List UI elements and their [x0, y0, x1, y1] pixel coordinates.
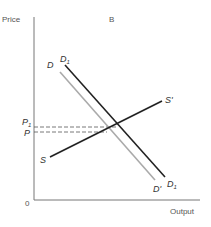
x-axis-label: Output	[170, 207, 195, 216]
demand-curve-d1	[65, 65, 165, 177]
d1-label: D1	[60, 54, 70, 65]
y-axis-label: Price	[2, 15, 21, 24]
p-label: P	[24, 128, 30, 138]
d1-end-label: D1	[167, 179, 177, 190]
chart-title: B	[109, 15, 114, 24]
origin-label: 0	[25, 199, 30, 208]
supply-curve-s	[50, 101, 162, 157]
s-label: S	[40, 155, 46, 165]
demand-curve-d	[60, 72, 155, 180]
supply-demand-chart: Price B Output 0 D D1 D' D1 S S' P1 P	[0, 0, 211, 227]
d-end-label: D'	[153, 184, 161, 194]
p1-label: P1	[22, 117, 31, 128]
d-label: D	[47, 60, 54, 70]
s-end-label: S'	[165, 95, 173, 105]
